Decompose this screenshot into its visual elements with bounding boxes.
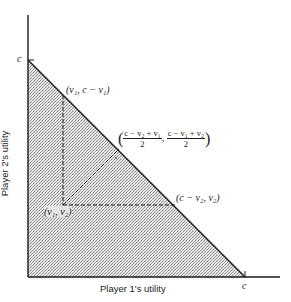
midpoint-y-fraction: c − v₁ + v₂2 bbox=[167, 128, 205, 149]
midpoint-x-numerator: c − v₂ + v₁ bbox=[123, 128, 161, 139]
close-paren: ) bbox=[205, 130, 210, 147]
midpoint-y-numerator: c − v₁ + v₂ bbox=[167, 128, 205, 139]
midpoint-x-fraction: c − v₂ + v₁2 bbox=[123, 128, 161, 149]
diagram-canvas bbox=[0, 0, 291, 302]
midpoint-label: (c − v₂ + v₁2, c − v₁ + v₂2) bbox=[118, 128, 210, 149]
midpoint-dot bbox=[115, 157, 117, 159]
threat-point-label: (v₁, v₂) bbox=[44, 206, 72, 217]
x-intercept-label: c bbox=[242, 280, 246, 291]
midpoint-x-denominator: 2 bbox=[140, 139, 144, 149]
x-axis-label: Player 1's utility bbox=[100, 283, 166, 294]
top-point-label: (v₁, c − v₁) bbox=[66, 84, 110, 95]
y-intercept-label: c bbox=[17, 53, 21, 64]
right-point-label: (c − v₂, v₂) bbox=[176, 192, 220, 203]
y-axis-label: Player 2's utility bbox=[0, 131, 10, 197]
midpoint-y-denominator: 2 bbox=[184, 139, 188, 149]
